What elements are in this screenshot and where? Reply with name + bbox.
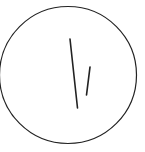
drawing-canvas <box>0 0 145 152</box>
canvas-background <box>0 0 145 152</box>
drawing-svg <box>0 0 145 152</box>
